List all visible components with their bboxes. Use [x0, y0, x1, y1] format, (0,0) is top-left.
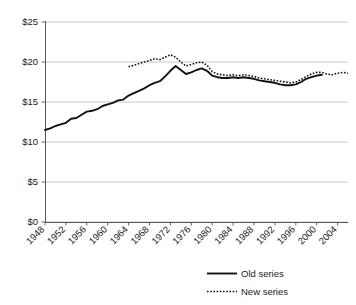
y-tick-label: $5: [27, 176, 38, 187]
x-tick-label: 1960: [86, 224, 109, 247]
x-tick-label: 1956: [65, 224, 88, 247]
y-tick-label: $20: [22, 56, 38, 67]
x-tick-label: 1992: [254, 224, 277, 247]
x-tick-label: 1972: [149, 224, 172, 247]
y-tick-marks: [42, 22, 46, 222]
chart-container: $0$5$10$15$20$25 19481952195619601964196…: [0, 0, 356, 305]
x-tick-label: 1976: [170, 224, 193, 247]
legend-label-old-series: Old series: [241, 268, 284, 279]
x-tick-label: 1984: [212, 224, 235, 247]
x-tick-label: 1964: [107, 224, 130, 247]
data-series: [45, 55, 348, 130]
x-tick-label: 2004: [316, 224, 339, 247]
x-tick-label: 1988: [233, 224, 256, 247]
gridlines: [45, 22, 348, 222]
y-tick-label: $25: [22, 16, 38, 27]
x-tick-label: 2000: [295, 224, 318, 247]
x-tick-labels: 1948195219561960196419681972197619801984…: [24, 224, 339, 247]
y-tick-label: $15: [22, 96, 38, 107]
x-tick-label: 1996: [274, 224, 297, 247]
legend: Old series New series: [207, 268, 288, 297]
series-line-old-series: [45, 66, 322, 130]
y-tick-labels: $0$5$10$15$20$25: [22, 16, 38, 227]
y-tick-label: $10: [22, 136, 38, 147]
legend-label-new-series: New series: [241, 286, 288, 297]
x-tick-label: 1980: [191, 224, 214, 247]
x-tick-label: 1968: [128, 224, 151, 247]
x-tick-label: 1952: [45, 224, 68, 247]
line-chart: $0$5$10$15$20$25 19481952195619601964196…: [0, 0, 356, 305]
